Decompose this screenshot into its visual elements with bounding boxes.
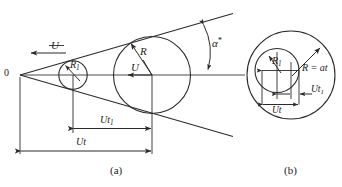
lower-mach-line [20,75,233,137]
diagram-canvas [0,0,342,187]
mach-angle-label: α* [212,36,222,49]
radius-label-inner-b: R1 [272,56,282,68]
dimension-label-ut1: Ut1 [100,115,114,127]
dimension-label-ut-b: Ut [272,106,282,116]
radius-label-small: R1 [70,60,80,72]
caption-b: (b) [284,165,297,176]
figure-root: 0 U R1 R U α* Ut1 Ut R1 R = at Ut1 Ut (a… [0,0,342,187]
freestream-velocity-label: U [51,40,59,51]
origin-label: 0 [4,68,9,78]
caption-a: (a) [110,165,122,176]
dimension-label-ut1-b: Ut1 [311,85,324,95]
panel-b-group [247,31,335,119]
radius-label-large: R [140,46,147,57]
dimension-label-ut: Ut [76,137,86,147]
velocity-arrow-inner-leader [143,60,152,75]
mach-angle-arc [204,25,211,70]
velocity-label-inner: U [131,62,139,73]
radius-label-outer-b: R = at [302,63,328,73]
panel-a-group [20,14,245,155]
